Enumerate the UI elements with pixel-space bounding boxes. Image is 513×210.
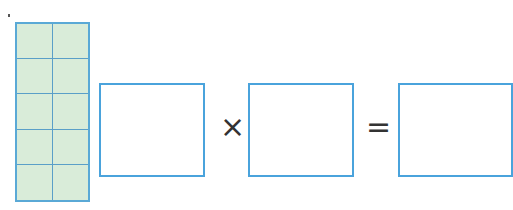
margin-mark (8, 14, 10, 17)
grid-cell (53, 94, 89, 129)
equals-sign: = (366, 112, 391, 142)
grid-cell (17, 24, 53, 59)
grid-cell (53, 165, 89, 200)
grid-cell (17, 94, 53, 129)
multiply-sign: × (220, 112, 245, 142)
grid-cell (17, 59, 53, 94)
grid-cell (53, 59, 89, 94)
grid-cell (17, 130, 53, 165)
result-answer-box[interactable] (398, 83, 513, 177)
operand1-answer-box[interactable] (99, 83, 205, 177)
array-grid (15, 22, 90, 202)
grid-cell (53, 130, 89, 165)
operand2-answer-box[interactable] (248, 83, 354, 177)
grid-cell (53, 24, 89, 59)
grid-cell (17, 165, 53, 200)
